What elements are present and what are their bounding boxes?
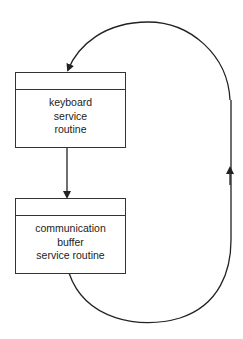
communication-buffer-service-routine-box: communication buffer service routine (15, 198, 126, 274)
label-line: buffer (16, 236, 125, 250)
label-line: service (16, 110, 125, 124)
box-header (16, 73, 125, 90)
label-line: communication (16, 222, 125, 236)
label-line: keyboard (16, 96, 125, 110)
label-line: routine (16, 123, 125, 137)
box-label: keyboard service routine (16, 90, 125, 137)
label-line: service routine (16, 249, 125, 263)
diagram-connectors (0, 0, 243, 339)
box-label: communication buffer service routine (16, 216, 125, 263)
keyboard-service-routine-box: keyboard service routine (15, 72, 126, 148)
box-header (16, 199, 125, 216)
